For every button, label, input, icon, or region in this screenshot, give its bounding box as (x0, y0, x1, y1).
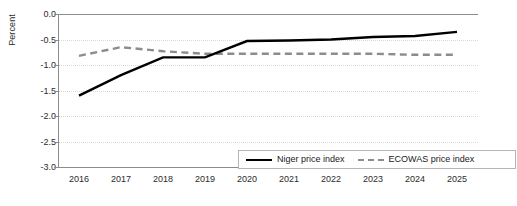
x-axis-tick-label: 2025 (436, 172, 478, 188)
legend-swatch-dashed-line-icon (358, 159, 384, 161)
y-axis-tick-label: -2.5 (12, 137, 56, 147)
y-axis-tick-labels: 0.0-0.5-1.0-1.5-2.0-2.5-3.0 (10, 0, 56, 206)
y-axis-tick-label: -2.0 (12, 111, 56, 121)
x-axis-tick-label: 2018 (142, 172, 184, 188)
legend-item[interactable]: ECOWAS price index (358, 154, 475, 165)
x-axis-tick-label: 2022 (310, 172, 352, 188)
legend-item-label: Niger price index (277, 154, 345, 165)
x-axis-tick-label: 2019 (184, 172, 226, 188)
x-axis-tick-label: 2024 (394, 172, 436, 188)
x-axis-tick-label: 2021 (268, 172, 310, 188)
y-axis-tick-label: -1.0 (12, 60, 56, 70)
x-axis-tick-label: 2016 (58, 172, 100, 188)
legend-item[interactable]: Niger price index (246, 154, 345, 165)
plot-area (58, 14, 478, 167)
y-axis-tick-label: -1.5 (12, 86, 56, 96)
x-axis-tick-labels: 2016201720182019202020212022202320242025 (58, 172, 478, 188)
x-axis-tick-label: 2020 (226, 172, 268, 188)
y-axis-tick-label: -3.0 (12, 162, 56, 172)
series-layer (58, 14, 478, 167)
legend: Niger price indexECOWAS price index (238, 150, 516, 169)
x-axis-tick-label: 2023 (352, 172, 394, 188)
line-chart: Percent 0.0-0.5-1.0-1.5-2.0-2.5-3.0 2016… (0, 0, 517, 206)
y-axis-tick-label: -0.5 (12, 35, 56, 45)
series-line-ecowas-price-index (79, 47, 457, 56)
legend-swatch-solid-line-icon (246, 159, 272, 161)
x-axis-tick-label: 2017 (100, 172, 142, 188)
y-axis-tick-label: 0.0 (12, 9, 56, 19)
legend-item-label: ECOWAS price index (389, 154, 475, 165)
y-axis-tick-mark (54, 167, 58, 168)
series-line-niger-price-index (79, 32, 457, 96)
